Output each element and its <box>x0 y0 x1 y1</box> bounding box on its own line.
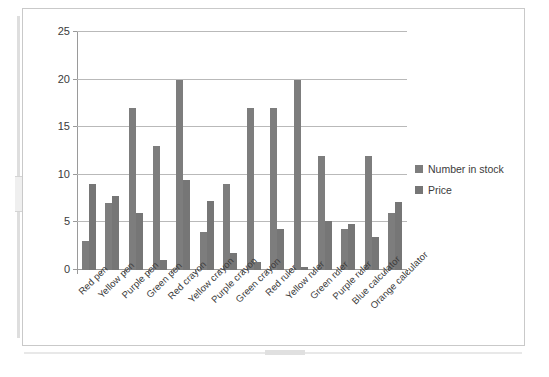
bar-price[interactable] <box>183 180 190 270</box>
bar-group <box>218 32 242 270</box>
legend-item[interactable]: Price <box>415 184 523 196</box>
bar-stock[interactable] <box>105 203 112 270</box>
plot-area: 0510152025 <box>77 32 407 270</box>
x-label-slot: Blue calculator <box>360 272 384 352</box>
bar-group <box>148 32 172 270</box>
bar-price[interactable] <box>325 221 332 271</box>
bar-stock[interactable] <box>176 80 183 270</box>
x-axis-labels: Red penYellow penPurple penGreen penRed … <box>77 272 407 352</box>
y-tick-label-10: 10 <box>58 168 70 180</box>
bar-stock[interactable] <box>247 108 254 270</box>
bar-price[interactable] <box>136 213 143 270</box>
x-label-slot: Red ruler <box>266 272 290 352</box>
bar-stock[interactable] <box>153 146 160 270</box>
bar-price[interactable] <box>112 196 119 270</box>
y-tick-label-15: 15 <box>58 120 70 132</box>
bar-stock[interactable] <box>129 108 136 270</box>
legend-label: Number in stock <box>428 163 504 175</box>
y-tick-label-25: 25 <box>58 25 70 37</box>
bar-price[interactable] <box>207 201 214 270</box>
bar-group <box>289 32 313 270</box>
legend-swatch-icon <box>415 165 423 173</box>
x-label-slot: Yellow crayon <box>195 272 219 352</box>
bar-stock[interactable] <box>294 80 301 270</box>
bar-group <box>313 32 337 270</box>
bar-price[interactable] <box>89 184 96 270</box>
x-label-slot: Red crayon <box>171 272 195 352</box>
y-tick-label-20: 20 <box>58 73 70 85</box>
x-label-slot: Yellow pen <box>101 272 125 352</box>
x-label-slot: Green crayon <box>242 272 266 352</box>
bar-group <box>195 32 219 270</box>
bar-group <box>171 32 195 270</box>
bar-group <box>101 32 125 270</box>
x-label-slot: Green pen <box>148 272 172 352</box>
bar-group <box>266 32 290 270</box>
bar-group <box>360 32 384 270</box>
x-label-slot: Purple ruler <box>336 272 360 352</box>
bar-groups <box>77 32 407 270</box>
bar-stock[interactable] <box>365 156 372 270</box>
bar-stock[interactable] <box>318 156 325 270</box>
bar-group <box>336 32 360 270</box>
bar-group <box>77 32 101 270</box>
bar-group <box>384 32 408 270</box>
y-tick-label-5: 5 <box>64 215 70 227</box>
legend-label: Price <box>428 184 452 196</box>
bar-group <box>242 32 266 270</box>
bar-stock[interactable] <box>82 241 89 270</box>
bar-stock[interactable] <box>270 108 277 270</box>
x-label-slot: Yellow ruler <box>289 272 313 352</box>
legend-swatch-icon <box>415 186 423 194</box>
bar-price[interactable] <box>348 224 355 270</box>
x-label-slot: Green ruler <box>313 272 337 352</box>
x-label-slot: Purple crayon <box>218 272 242 352</box>
legend-item[interactable]: Number in stock <box>415 163 523 175</box>
chart-legend: Number in stockPrice <box>415 163 523 205</box>
x-label-slot: Orange calculator <box>384 272 408 352</box>
y-tick-label-0: 0 <box>64 263 70 275</box>
x-label-slot: Purple pen <box>124 272 148 352</box>
bar-group <box>124 32 148 270</box>
x-label-slot: Red pen <box>77 272 101 352</box>
vertical-scrollbar-thumb[interactable] <box>15 176 22 212</box>
bar-chart: 0510152025 Red penYellow penPurple penGr… <box>22 8 525 346</box>
